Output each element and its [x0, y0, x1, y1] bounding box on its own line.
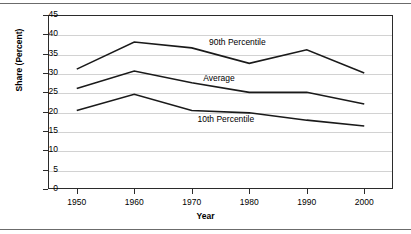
x-tick-label: 1960 [114, 197, 154, 207]
x-tick-label: 1990 [287, 197, 327, 207]
top-divider-rule [0, 3, 411, 4]
y-tick-label: 35 [34, 49, 58, 58]
x-tick-label: 1970 [172, 197, 212, 207]
x-tick-mark [249, 189, 250, 194]
y-tick-label: 0 [34, 184, 58, 193]
bottom-divider-rule [0, 229, 411, 230]
y-tick-label: 30 [34, 68, 58, 77]
line-chart-figure: Share (Percent) Year 0510152025303540451… [0, 8, 411, 226]
x-axis-title: Year [0, 211, 411, 221]
x-tick-label: 1980 [229, 197, 269, 207]
series-annotation-10th-percentile: 10th Percentile [198, 114, 255, 124]
y-axis-title: Share (Percent) [14, 10, 24, 110]
x-tick-mark [77, 189, 78, 194]
x-tick-mark [364, 189, 365, 194]
x-tick-mark [134, 189, 135, 194]
x-tick-label: 1950 [57, 197, 97, 207]
y-tick-label: 5 [34, 165, 58, 174]
series-annotation-average: Average [203, 73, 235, 83]
y-tick-label: 45 [34, 10, 58, 19]
chart-page: Share (Percent) Year 0510152025303540451… [0, 0, 411, 234]
y-tick-label: 20 [34, 107, 58, 116]
series-annotation-90th-percentile: 90th Percentile [209, 37, 266, 47]
y-tick-label: 10 [34, 145, 58, 154]
y-tick-label: 25 [34, 87, 58, 96]
x-tick-mark [307, 189, 308, 194]
x-tick-mark [192, 189, 193, 194]
y-tick-label: 40 [34, 29, 58, 38]
y-tick-label: 15 [34, 126, 58, 135]
x-tick-label: 2000 [344, 197, 384, 207]
